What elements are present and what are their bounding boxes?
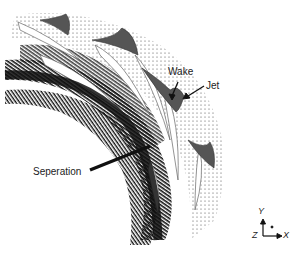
axis-x-label: X	[283, 230, 289, 240]
jet-label: Jet	[206, 80, 219, 91]
axis-z-label: Z	[252, 230, 258, 240]
wake-label: Wake	[168, 66, 193, 77]
axis-triad	[261, 219, 283, 239]
separation-label: Seperation	[33, 166, 81, 177]
flow-field-diagram	[0, 0, 302, 254]
axis-y-label: Y	[258, 206, 264, 216]
